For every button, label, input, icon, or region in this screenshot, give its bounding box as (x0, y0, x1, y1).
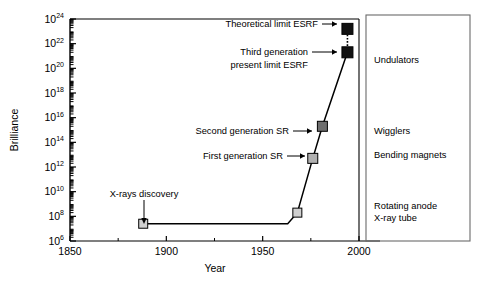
second-generation-arrow-head (307, 128, 312, 133)
x-tick-label: 1850 (58, 245, 82, 257)
y-tick-label: 108 (48, 209, 64, 222)
theoretical-limit-arrow-head (332, 21, 337, 26)
marker-square (293, 208, 302, 217)
marker-square (342, 23, 353, 34)
annotation-third-generation-line1: Third generation (240, 47, 308, 57)
legend-item-bending-magnets: Bending magnets (374, 150, 447, 160)
y-tick-label: 1020 (45, 61, 65, 74)
y-tick-label: 1022 (45, 37, 65, 50)
legend-item-wigglers: Wigglers (374, 126, 411, 136)
x-axis-title: Year (204, 262, 226, 274)
annotation-third-generation-line2: present limit ESRF (231, 60, 309, 70)
y-axis-title: Brilliance (8, 109, 20, 152)
marker-square (342, 47, 353, 58)
brilliance-vs-year-chart: 10610810101012101410161018102010221024 1… (0, 0, 485, 285)
annotation-xrays-discovery: X-rays discovery (110, 189, 179, 199)
first-generation-arrow-head (300, 153, 305, 158)
x-tick-label: 2000 (347, 245, 371, 257)
x-tick-label: 1900 (155, 245, 179, 257)
legend-item-rotating-anode-line2: X-ray tube (374, 213, 417, 223)
x-axis-ticks (70, 236, 359, 241)
figure-root: 10610810101012101410161018102010221024 1… (0, 0, 485, 285)
y-axis-tick-labels: 10610810101012101410161018102010221024 (45, 12, 65, 247)
x-axis-tick-labels: 1850190019502000 (58, 245, 371, 257)
legend-item-undulators: Undulators (374, 55, 419, 65)
annotation-second-generation-sr: Second generation SR (195, 126, 289, 136)
x-tick-label: 1950 (251, 245, 275, 257)
y-tick-label: 1016 (45, 111, 65, 124)
legend-box: Undulators Wigglers Bending magnets Rota… (366, 15, 470, 241)
y-tick-label: 1010 (45, 185, 65, 198)
y-tick-label: 1014 (45, 135, 65, 148)
y-tick-label: 1018 (45, 86, 65, 99)
marker-square (308, 153, 318, 163)
legend-item-rotating-anode-line1: Rotating anode (374, 201, 437, 211)
marker-square (317, 121, 327, 131)
y-tick-label: 1012 (45, 160, 65, 173)
annotation-first-generation-sr: First generation SR (203, 151, 283, 161)
third-generation-arrow-head (332, 49, 337, 54)
annotation-theoretical-limit-esrf: Theoretical limit ESRF (226, 19, 319, 29)
y-axis-ticks (70, 19, 76, 241)
y-tick-label: 1024 (45, 12, 65, 25)
